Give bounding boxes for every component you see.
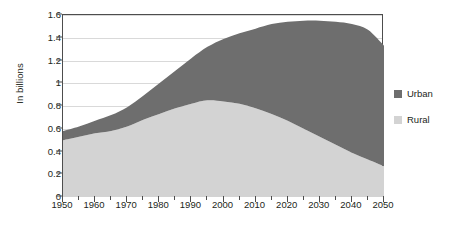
x-axis-tick-mark — [94, 196, 95, 202]
legend-swatch-icon — [394, 116, 402, 124]
x-axis-tick-mark — [158, 196, 159, 202]
x-axis-minor-tick-mark — [271, 196, 272, 200]
x-axis-minor-tick-mark — [78, 196, 79, 200]
x-axis-tick-mark — [190, 196, 191, 202]
legend-swatch-icon — [394, 90, 402, 98]
legend-item-label: Rural — [407, 114, 430, 125]
plot-area — [62, 14, 383, 196]
y-axis-title: In billions — [14, 29, 25, 139]
area-chart: In billions 00.20.40.60.811.21.41.6 1950… — [0, 0, 450, 231]
x-axis-tick-mark — [223, 196, 224, 202]
legend-item-urban[interactable]: Urban — [394, 88, 433, 99]
x-axis-minor-tick-mark — [206, 196, 207, 200]
x-axis-minor-tick-mark — [110, 196, 111, 200]
x-axis-minor-tick-mark — [303, 196, 304, 200]
x-axis-minor-tick-mark — [239, 196, 240, 200]
x-axis-tick-mark — [287, 196, 288, 202]
area-series-layer — [63, 15, 382, 195]
stacked-area-paths — [63, 15, 384, 197]
x-axis-tick-mark — [351, 196, 352, 202]
x-axis-minor-tick-mark — [335, 196, 336, 200]
x-axis-minor-tick-mark — [142, 196, 143, 200]
x-axis-minor-tick-mark — [174, 196, 175, 200]
chart-legend: UrbanRural — [394, 88, 433, 140]
x-axis-tick-mark — [383, 196, 384, 202]
legend-item-rural[interactable]: Rural — [394, 114, 433, 125]
x-axis-tick-mark — [62, 196, 63, 202]
legend-item-label: Urban — [407, 88, 433, 99]
x-axis-tick-mark — [319, 196, 320, 202]
x-axis-minor-tick-mark — [367, 196, 368, 200]
x-axis-tick-mark — [126, 196, 127, 202]
x-axis-tick-mark — [255, 196, 256, 202]
